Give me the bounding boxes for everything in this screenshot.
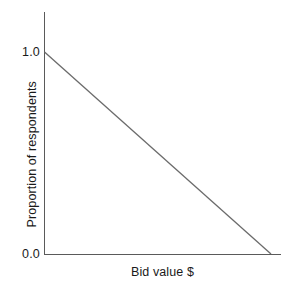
y-axis-tick-label-0: 0.0 <box>6 248 40 261</box>
chart-plot-area <box>0 0 289 289</box>
chart-figure: 1.0 0.0 Proportion of respondents Bid va… <box>0 0 289 289</box>
y-axis-title: Proportion of respondents <box>26 59 39 249</box>
y-axis-tick-label-1: 1.0 <box>6 46 40 59</box>
demand-curve-line <box>45 52 272 254</box>
x-axis-title: Bid value $ <box>44 266 281 279</box>
